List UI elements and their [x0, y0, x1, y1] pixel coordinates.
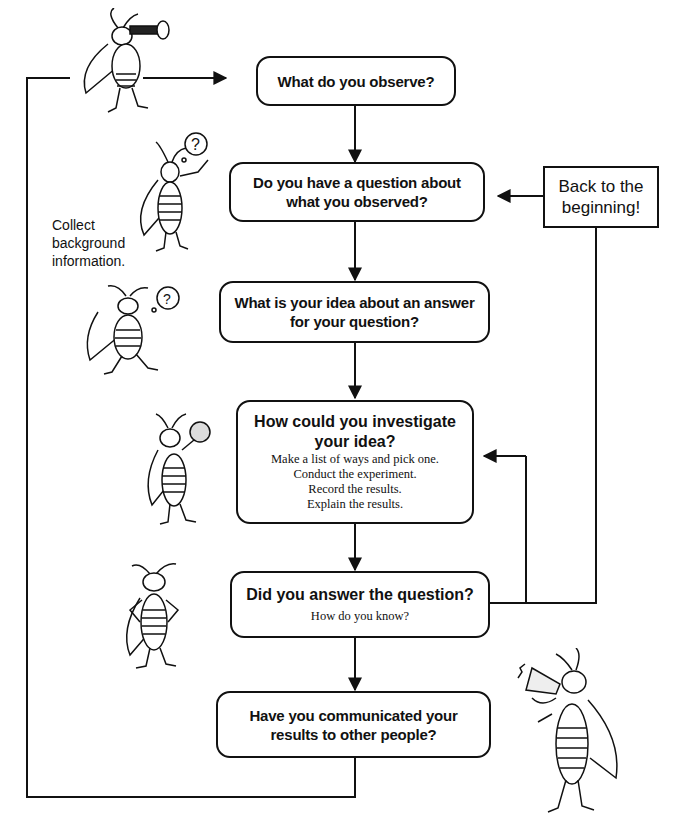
step-investigate-detail-3: Record the results. — [308, 482, 401, 497]
cricket-with-telescope-icon — [68, 8, 186, 118]
note-line-1: Collect — [52, 216, 125, 234]
collect-background-note: Collect background information. — [52, 216, 125, 270]
step-question-title-line-2: what you observed? — [286, 192, 427, 211]
step-observe: What do you observe? — [256, 56, 456, 106]
scientific-method-flowchart: What do you observe? Do you have a quest… — [0, 0, 688, 833]
step-investigate-detail-4: Explain the results. — [307, 497, 403, 512]
step-communicate-title-line-1: Have you communicated your — [249, 706, 457, 725]
cricket-with-magnifier-icon — [138, 410, 228, 530]
svg-text:?: ? — [191, 136, 200, 153]
step-idea: What is your idea about an answer for yo… — [219, 281, 490, 343]
back-to-beginning-line-1: Back to the — [558, 176, 643, 197]
step-answer-title: Did you answer the question? — [246, 585, 474, 605]
note-line-2: background — [52, 234, 125, 252]
step-answer: Did you answer the question? How do you … — [230, 571, 490, 638]
step-investigate-detail-1: Make a list of ways and pick one. — [271, 452, 439, 467]
step-investigate: How could you investigate your idea? Mak… — [236, 400, 474, 524]
cricket-thinking-icon: ? — [78, 282, 188, 382]
back-to-beginning-line-2: beginning! — [562, 197, 640, 218]
note-line-3: information. — [52, 252, 125, 270]
step-question: Do you have a question about what you ob… — [229, 162, 485, 222]
step-observe-title: What do you observe? — [278, 72, 435, 91]
back-to-beginning-box: Back to the beginning! — [543, 166, 659, 228]
svg-text:?: ? — [163, 291, 171, 307]
cricket-hands-on-hips-icon — [112, 560, 202, 675]
step-communicate: Have you communicated your results to ot… — [216, 691, 491, 758]
cricket-with-question-bubble-icon: ? — [128, 130, 223, 255]
cricket-with-megaphone-icon — [512, 648, 632, 828]
step-idea-title-line-1: What is your idea about an answer — [234, 293, 474, 312]
step-answer-detail: How do you know? — [311, 609, 409, 624]
step-communicate-title-line-2: results to other people? — [270, 725, 436, 744]
step-investigate-title-line-2: your idea? — [315, 432, 396, 452]
step-question-title-line-1: Do you have a question about — [253, 173, 461, 192]
step-investigate-title-line-1: How could you investigate — [254, 412, 456, 432]
step-investigate-detail-2: Conduct the experiment. — [293, 467, 416, 482]
step-idea-title-line-2: for your question? — [290, 312, 419, 331]
